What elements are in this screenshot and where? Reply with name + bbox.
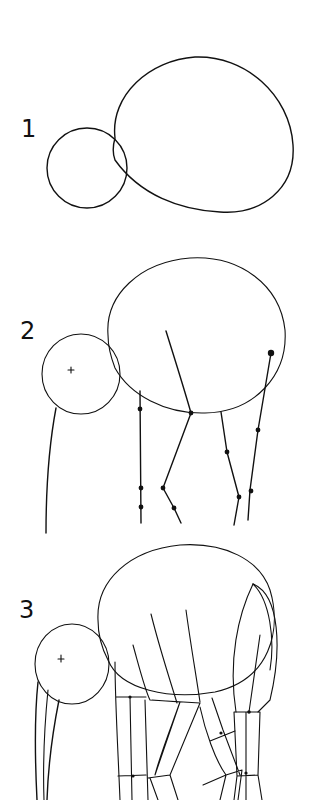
step-3-drawing [35,545,277,800]
body-inner-lines [151,610,200,703]
elephant-construction-drawing [0,0,314,800]
hind-leg-guide [249,635,260,712]
trunk-guide [46,408,56,533]
front-leg-1 [115,662,148,800]
head-circle [42,334,120,414]
hind-leg-2-guide [248,353,271,520]
step-1-drawing [47,57,293,212]
head-center-mark [58,655,64,662]
head-center-mark [68,367,74,373]
hind-quarter [233,584,253,712]
trunk-left [35,682,38,800]
body-oval [98,545,274,695]
hind-leg-2 [234,712,262,800]
front-leg-2-guide [163,331,191,523]
body-oval [108,258,285,413]
trunk-right [47,700,59,800]
body-oval [113,57,293,212]
step-2-drawing [42,258,285,533]
hind-quarter-inner [253,584,272,670]
hind-leg-1-guide [221,412,239,525]
head-circle [35,624,109,704]
